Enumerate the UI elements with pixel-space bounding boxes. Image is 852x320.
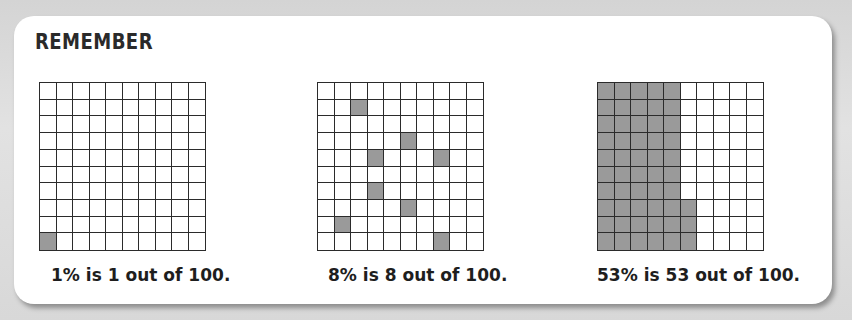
grid-cell: [106, 167, 123, 184]
grid-cell: [714, 100, 731, 117]
grid-cell-filled: [434, 150, 451, 167]
grid-cell: [172, 200, 189, 217]
grid-cell: [73, 150, 90, 167]
grid-cell: [335, 233, 352, 250]
grid-cell: [450, 83, 467, 100]
grid-cell: [368, 100, 385, 117]
grid-cell: [318, 200, 335, 217]
grid-cell: [156, 133, 173, 150]
grid-cell: [57, 200, 74, 217]
grid-cell: [681, 133, 698, 150]
grid-cell-filled: [631, 150, 648, 167]
grid-cell: [368, 116, 385, 133]
grid-cell: [156, 217, 173, 234]
grid-cell: [450, 133, 467, 150]
grid-cell: [90, 217, 107, 234]
grid-cell: [172, 150, 189, 167]
grid-cell: [384, 183, 401, 200]
grid-cell: [401, 83, 418, 100]
grid-cell-filled: [681, 233, 698, 250]
grid-cell: [90, 167, 107, 184]
caption-53-percent: 53% is 53 out of 100.: [597, 264, 800, 285]
grid-cell: [747, 217, 764, 234]
grid-cell-filled: [664, 133, 681, 150]
grid-cell-filled: [401, 200, 418, 217]
grid-cell-filled: [648, 100, 665, 117]
grid-cell: [714, 133, 731, 150]
grid-cell: [139, 200, 156, 217]
grid-cell-filled: [631, 133, 648, 150]
grid-cell: [747, 167, 764, 184]
grid-cell: [57, 116, 74, 133]
grid-cell-filled: [631, 100, 648, 117]
grid-cell: [90, 100, 107, 117]
grid-cell: [434, 183, 451, 200]
grid-cell: [368, 133, 385, 150]
grid-cell-filled: [648, 83, 665, 100]
grid-cell: [57, 233, 74, 250]
grid-cell: [450, 183, 467, 200]
grid-cell: [57, 150, 74, 167]
grid-cell: [368, 167, 385, 184]
grid-cell: [747, 183, 764, 200]
grid-cell: [730, 183, 747, 200]
grid-cell: [318, 116, 335, 133]
grid-cell-filled: [664, 200, 681, 217]
grid-cell: [681, 100, 698, 117]
grid-cell: [318, 217, 335, 234]
grid-cell: [467, 167, 484, 184]
grid-cell: [351, 133, 368, 150]
grid-cell-filled: [615, 100, 632, 117]
grid-cell: [417, 116, 434, 133]
grid-cell: [73, 100, 90, 117]
grid-cell: [139, 150, 156, 167]
grid-cell: [106, 183, 123, 200]
grid-cell: [401, 183, 418, 200]
grid-cell: [697, 100, 714, 117]
grid-cell: [351, 116, 368, 133]
grid-cell: [368, 233, 385, 250]
grid-cell: [335, 183, 352, 200]
grid-cell: [747, 233, 764, 250]
grid-cell: [730, 83, 747, 100]
grid-cell-filled: [631, 83, 648, 100]
grid-cell: [450, 167, 467, 184]
grid-cell: [156, 233, 173, 250]
grid-cell-filled: [615, 200, 632, 217]
grid-cell: [714, 183, 731, 200]
grid-cell-filled: [615, 233, 632, 250]
grid-cell-filled: [681, 217, 698, 234]
grid-cell: [417, 217, 434, 234]
grid-cell-filled: [368, 150, 385, 167]
grid-cell: [434, 83, 451, 100]
grid-cell: [747, 150, 764, 167]
grid-cell: [156, 167, 173, 184]
grid-cell: [434, 217, 451, 234]
grid-cell: [401, 167, 418, 184]
grid-cell: [156, 100, 173, 117]
grid-cell: [697, 167, 714, 184]
grid-cell: [106, 83, 123, 100]
grid-cell: [368, 200, 385, 217]
grid-cell: [681, 183, 698, 200]
card-title: REMEMBER: [35, 30, 153, 54]
grid-cell: [467, 83, 484, 100]
grid-cell: [318, 83, 335, 100]
grid-cell: [384, 83, 401, 100]
grid-cell: [189, 116, 206, 133]
grid-cell: [450, 200, 467, 217]
grid-cell: [123, 116, 140, 133]
grid-cell-filled: [598, 150, 615, 167]
grid-cell: [90, 116, 107, 133]
grid-cell-filled: [615, 133, 632, 150]
grid-cell: [139, 217, 156, 234]
grid-cell: [189, 150, 206, 167]
grid-cell: [681, 167, 698, 184]
grid-cell-filled: [648, 150, 665, 167]
grid-cell: [156, 150, 173, 167]
grid-cell: [139, 100, 156, 117]
grid-cell: [450, 100, 467, 117]
grid-cell-filled: [664, 167, 681, 184]
grid-cell-filled: [664, 100, 681, 117]
grid-cell: [434, 116, 451, 133]
